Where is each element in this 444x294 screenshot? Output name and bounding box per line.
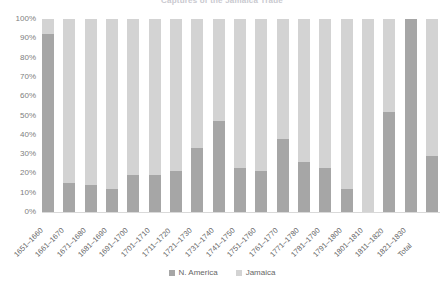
bar-segment-n-america[interactable] — [42, 34, 54, 212]
bar-series-group — [42, 19, 438, 212]
bar-segment-jamaica[interactable] — [383, 19, 395, 112]
bar-segment-n-america[interactable] — [106, 189, 118, 212]
bar-segment-jamaica[interactable] — [341, 19, 353, 189]
chart-root: Captures of the Jamaica Trade 0%10%20%30… — [0, 0, 444, 294]
x-axis: 1651–16601661–16701671–16801681–16901691… — [42, 213, 438, 269]
bar-segment-jamaica[interactable] — [255, 19, 267, 171]
bar-column[interactable] — [127, 19, 139, 212]
legend-label-jamaica: Jamaica — [246, 268, 276, 277]
y-axis-tick-label: 90% — [20, 34, 36, 42]
bar-segment-jamaica[interactable] — [213, 19, 225, 121]
bar-column[interactable] — [85, 19, 97, 212]
bar-column[interactable] — [106, 19, 118, 212]
y-axis-tick-label: 0% — [24, 208, 36, 216]
bar-column[interactable] — [255, 19, 267, 212]
bar-column[interactable] — [191, 19, 203, 212]
bar-column[interactable] — [277, 19, 289, 212]
bar-segment-jamaica[interactable] — [127, 19, 139, 175]
bar-segment-n-america[interactable] — [85, 185, 97, 212]
bar-segment-n-america[interactable] — [405, 19, 417, 212]
bar-column[interactable] — [405, 19, 417, 212]
bar-segment-n-america[interactable] — [63, 183, 75, 212]
bar-segment-jamaica[interactable] — [85, 19, 97, 185]
bar-segment-jamaica[interactable] — [277, 19, 289, 139]
x-axis-tick: Total — [426, 213, 438, 269]
y-axis-tick-label: 10% — [20, 189, 36, 197]
legend-swatch-icon-jamaica — [236, 270, 242, 276]
bar-segment-jamaica[interactable] — [149, 19, 161, 175]
bar-segment-n-america[interactable] — [191, 148, 203, 212]
y-axis-tick-label: 100% — [16, 15, 36, 23]
bar-column[interactable] — [383, 19, 395, 212]
legend-item-n-america[interactable]: N. America — [169, 268, 218, 277]
bar-column[interactable] — [362, 19, 374, 212]
y-axis-tick-label: 30% — [20, 150, 36, 158]
bar-segment-jamaica[interactable] — [234, 19, 246, 168]
y-axis-tick-label: 50% — [20, 112, 36, 120]
bar-column[interactable] — [298, 19, 310, 212]
bar-column[interactable] — [213, 19, 225, 212]
bar-segment-n-america[interactable] — [341, 189, 353, 212]
bar-segment-n-america[interactable] — [383, 112, 395, 212]
y-axis-tick-label: 20% — [20, 169, 36, 177]
bar-segment-n-america[interactable] — [127, 175, 139, 212]
y-axis-tick-label: 40% — [20, 131, 36, 139]
chart-legend: N. America Jamaica — [0, 268, 444, 277]
chart-title: Captures of the Jamaica Trade — [0, 0, 444, 6]
bar-segment-jamaica[interactable] — [426, 19, 438, 156]
bar-column[interactable] — [170, 19, 182, 212]
bar-segment-n-america[interactable] — [255, 171, 267, 212]
bar-segment-jamaica[interactable] — [298, 19, 310, 162]
y-axis-tick-label: 70% — [20, 73, 36, 81]
bar-segment-n-america[interactable] — [319, 168, 331, 212]
legend-label-n-america: N. America — [179, 268, 218, 277]
bar-segment-n-america[interactable] — [170, 171, 182, 212]
bar-segment-jamaica[interactable] — [42, 19, 54, 34]
bar-segment-jamaica[interactable] — [63, 19, 75, 183]
bar-segment-n-america[interactable] — [149, 175, 161, 212]
legend-item-jamaica[interactable]: Jamaica — [236, 268, 276, 277]
bar-column[interactable] — [63, 19, 75, 212]
bar-column[interactable] — [234, 19, 246, 212]
bar-column[interactable] — [319, 19, 331, 212]
bar-segment-n-america[interactable] — [213, 121, 225, 212]
bar-segment-jamaica[interactable] — [191, 19, 203, 148]
bar-segment-n-america[interactable] — [234, 168, 246, 212]
bar-column[interactable] — [426, 19, 438, 212]
bar-segment-jamaica[interactable] — [362, 19, 374, 212]
y-axis-tick-label: 80% — [20, 54, 36, 62]
bar-segment-jamaica[interactable] — [106, 19, 118, 189]
bar-segment-n-america[interactable] — [426, 156, 438, 212]
bar-segment-n-america[interactable] — [277, 139, 289, 212]
bar-segment-jamaica[interactable] — [319, 19, 331, 168]
y-axis: 0%10%20%30%40%50%60%70%80%90%100% — [0, 0, 40, 212]
bar-column[interactable] — [149, 19, 161, 212]
y-axis-tick-label: 60% — [20, 92, 36, 100]
bar-column[interactable] — [341, 19, 353, 212]
bar-column[interactable] — [42, 19, 54, 212]
bar-segment-n-america[interactable] — [298, 162, 310, 212]
legend-swatch-icon-n-america — [169, 270, 175, 276]
plot-area — [42, 19, 438, 212]
bar-segment-jamaica[interactable] — [170, 19, 182, 171]
